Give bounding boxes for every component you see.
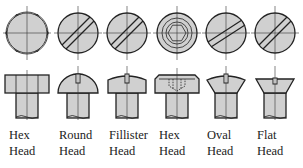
hex-head-side-view — [5, 70, 49, 120]
label-line1: Hex — [9, 127, 35, 143]
round-head-top-view — [54, 6, 102, 60]
socket-hex-head-top-view — [153, 6, 201, 60]
label-line2: Head — [9, 143, 35, 159]
label-line2: Head — [159, 143, 185, 159]
label-line2: Head — [109, 143, 148, 159]
label-line1: Flat — [257, 127, 283, 143]
label-flat-head: Flat Head — [257, 127, 283, 159]
socket-hex-head-side-view — [155, 68, 199, 120]
label-fillister-head: Fillister Head — [109, 127, 148, 159]
oval-head-side-view — [207, 66, 245, 120]
label-line1: Hex — [159, 127, 185, 143]
hex-head-top-view — [3, 6, 51, 60]
flat-head-top-view — [251, 6, 299, 60]
label-socket-hex-head: Hex Head — [159, 127, 185, 159]
label-line2: Head — [257, 143, 283, 159]
label-round-head: Round Head — [59, 127, 92, 159]
label-oval-head: Oval Head — [207, 127, 233, 159]
flat-head-side-view — [256, 66, 294, 120]
label-line1: Oval — [207, 127, 233, 143]
oval-head-top-view — [202, 6, 250, 60]
label-line2: Head — [207, 143, 233, 159]
fillister-head-side-view — [108, 66, 146, 120]
fillister-head-top-view — [103, 6, 151, 60]
round-head-side-view — [58, 66, 98, 120]
label-hex-head: Hex Head — [9, 127, 35, 159]
label-line1: Fillister — [109, 127, 148, 143]
label-line1: Round — [59, 127, 92, 143]
label-line2: Head — [59, 143, 92, 159]
